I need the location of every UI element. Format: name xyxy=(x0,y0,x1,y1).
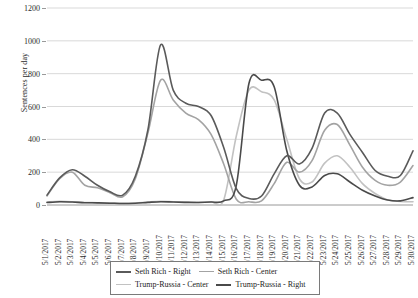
y-axis-tick-label: 1200 xyxy=(24,4,40,13)
legend-color-swatch xyxy=(199,271,214,272)
y-axis-tick-label: 200 xyxy=(28,168,40,177)
y-axis-tick-label: 1000 xyxy=(24,36,40,45)
x-axis-tick-label: 5/24/2017 xyxy=(331,235,340,265)
x-axis-tick-labels: 5/1/20175/2/20175/3/20175/4/20175/5/2017… xyxy=(47,207,413,265)
x-axis-tick-label: 5/28/2017 xyxy=(382,235,391,265)
x-axis-tick-label: 5/25/2017 xyxy=(344,235,353,265)
line-chart-svg xyxy=(47,8,413,205)
y-axis-tick-mark xyxy=(42,205,46,206)
plot-area xyxy=(47,8,413,205)
legend-row: Trump-Russia - CenterTrump-Russia - Righ… xyxy=(116,278,314,291)
y-axis-tick-mark xyxy=(42,139,46,140)
legend-label: Trump-Russia - Center xyxy=(135,280,208,289)
x-axis-tick-label: 5/29/2017 xyxy=(394,235,403,265)
legend-color-swatch xyxy=(216,284,231,286)
chart-legend: Seth Rich - RightSeth Rich - Center Trum… xyxy=(110,261,320,295)
legend-label: Seth Rich - Center xyxy=(218,267,277,276)
chart-root: Sentences per day 020040060080010001200 … xyxy=(0,0,418,298)
x-axis-tick-label: 5/3/2017 xyxy=(66,239,75,265)
y-axis-tick-mark xyxy=(42,8,46,9)
legend-item[interactable]: Trump-Russia - Center xyxy=(116,280,208,289)
y-axis-tick-label: 600 xyxy=(28,102,40,111)
legend-color-swatch xyxy=(116,271,131,273)
x-axis-tick-label: 5/1/2017 xyxy=(41,239,50,265)
legend-item[interactable]: Seth Rich - Center xyxy=(199,267,277,276)
x-axis-tick-label: 5/5/2017 xyxy=(91,239,100,265)
legend-item[interactable]: Trump-Russia - Right xyxy=(216,280,305,289)
y-axis-tick-label: 400 xyxy=(28,135,40,144)
legend-label: Seth Rich - Right xyxy=(135,267,191,276)
x-axis-tick-label: 5/27/2017 xyxy=(369,235,378,265)
y-axis-tick-labels: 020040060080010001200 xyxy=(0,0,44,213)
x-axis-tick-label: 5/26/2017 xyxy=(357,235,366,265)
y-axis-tick-label: 800 xyxy=(28,69,40,78)
legend-row: Seth Rich - RightSeth Rich - Center xyxy=(116,265,314,278)
y-axis-tick-label: 0 xyxy=(36,201,40,210)
x-axis-tick-label: 5/30/2017 xyxy=(407,235,416,265)
y-axis-tick-mark xyxy=(42,172,46,173)
legend-color-swatch xyxy=(116,284,131,285)
y-axis-tick-mark xyxy=(42,74,46,75)
legend-item[interactable]: Seth Rich - Right xyxy=(116,267,191,276)
legend-label: Trump-Russia - Right xyxy=(235,280,305,289)
x-axis-tick-label: 5/4/2017 xyxy=(79,239,88,265)
series-line xyxy=(47,79,413,203)
x-axis-tick-label: 5/2/2017 xyxy=(54,239,63,265)
series-line xyxy=(47,44,413,199)
y-axis-tick-mark xyxy=(42,107,46,108)
y-axis-tick-mark xyxy=(42,41,46,42)
